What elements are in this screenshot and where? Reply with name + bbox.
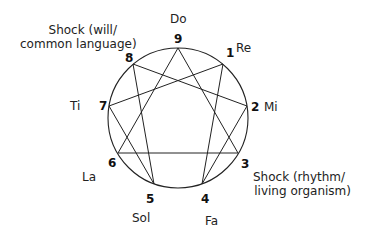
point-4-number: 4 (201, 192, 209, 206)
note-la: La (82, 170, 96, 184)
hexad-1-4-2-8-5-7 (109, 64, 247, 184)
shock-upper-label: Shock (will/ common language) (20, 23, 117, 51)
note-re: Re (236, 41, 251, 55)
point-9-number: 9 (174, 32, 182, 46)
point-8-number: 8 (125, 51, 133, 65)
shock-upper-line1: Shock (will/ (20, 23, 117, 37)
note-fa: Fa (205, 214, 218, 228)
shock-lower-line2: living organism) (253, 184, 351, 198)
note-mi: Mi (264, 100, 278, 114)
point-7-number: 7 (99, 99, 107, 113)
note-sol: Sol (132, 211, 150, 225)
point-1-number: 1 (226, 46, 234, 60)
point-3-number: 3 (241, 157, 249, 171)
note-do: Do (170, 12, 187, 26)
shock-upper-line2: common language) (20, 37, 117, 51)
shock-lower-line1: Shock (rhythm/ (253, 170, 351, 184)
point-2-number: 2 (251, 100, 259, 114)
shock-lower-label: Shock (rhythm/ living organism) (253, 170, 351, 198)
point-6-number: 6 (108, 156, 116, 170)
note-ti: Ti (70, 99, 80, 113)
enneagram-circle (108, 48, 248, 188)
triangle-9-3-6 (118, 48, 238, 153)
point-5-number: 5 (146, 192, 154, 206)
